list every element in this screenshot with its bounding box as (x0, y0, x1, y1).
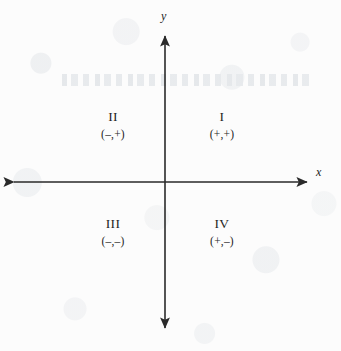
quadrant-1-signs: (+,+) (177, 129, 267, 141)
quadrant-1-roman: I (177, 110, 267, 124)
quadrant-1-label: I (+,+) (177, 110, 267, 140)
quadrant-3-signs: (–,–) (68, 236, 158, 248)
y-axis-label: y (161, 10, 166, 22)
quadrant-4-label: IV (+,–) (177, 217, 267, 247)
coordinate-plane-figure: y x I (+,+) II (–,+) III (–,–) IV (+,–) (0, 0, 341, 351)
quadrant-2-label: II (–,+) (68, 110, 158, 140)
axes-drawing (0, 0, 341, 351)
quadrant-3-roman: III (68, 217, 158, 231)
quadrant-3-label: III (–,–) (68, 217, 158, 247)
quadrant-4-roman: IV (177, 217, 267, 231)
quadrant-4-signs: (+,–) (177, 236, 267, 248)
quadrant-2-signs: (–,+) (68, 129, 158, 141)
x-axis-label: x (316, 166, 321, 178)
quadrant-2-roman: II (68, 110, 158, 124)
